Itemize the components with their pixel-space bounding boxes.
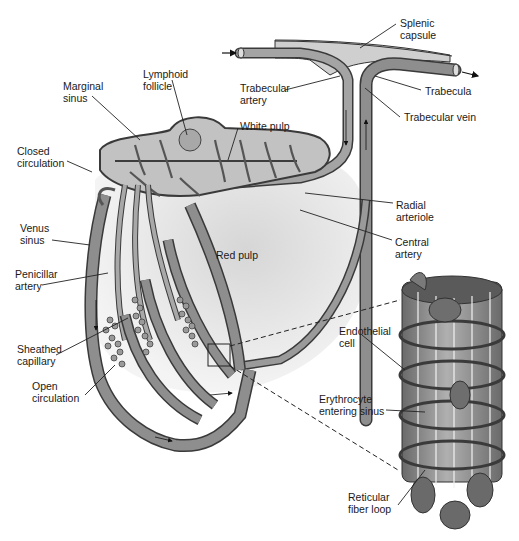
label-endothelial-cell: Endothelial cell — [339, 325, 391, 349]
label-white-pulp: White pulp — [240, 120, 290, 132]
label-trabecular-vein: Trabecular vein — [404, 111, 476, 123]
label-sheathed-capillary: Sheathed capillary — [17, 343, 62, 367]
label-closed-circulation: Closed circulation — [17, 145, 64, 169]
label-erythrocyte-entering-sinus: Erythrocyte entering sinus — [319, 393, 384, 417]
label-open-circulation: Open circulation — [32, 380, 79, 404]
lymphoid-follicle — [179, 129, 201, 151]
label-marginal-sinus: Marginal sinus — [63, 80, 103, 104]
label-trabecula: Trabecula — [425, 85, 471, 97]
sinus-detail-cylinder — [400, 273, 504, 529]
label-trabecular-artery: Trabecular artery — [240, 82, 290, 106]
label-red-pulp: Red pulp — [216, 249, 258, 261]
label-penicillar-artery: Penicillar artery — [15, 268, 58, 292]
label-reticular-fiber-loop: Reticular fiber loop — [348, 491, 391, 515]
label-central-artery: Central artery — [395, 236, 429, 260]
label-venus-sinus: Venus sinus — [20, 222, 49, 246]
label-radial-arteriole: Radial arteriole — [396, 199, 434, 223]
label-lymphoid-follicle: Lymphoid follicle — [143, 68, 188, 92]
label-splenic-capsule: Splenic capsule — [400, 17, 436, 41]
